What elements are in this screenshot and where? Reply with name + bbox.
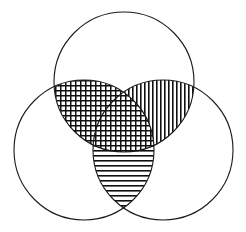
venn-diagram-figure [0, 0, 246, 232]
venn-diagram-canvas [0, 0, 246, 232]
